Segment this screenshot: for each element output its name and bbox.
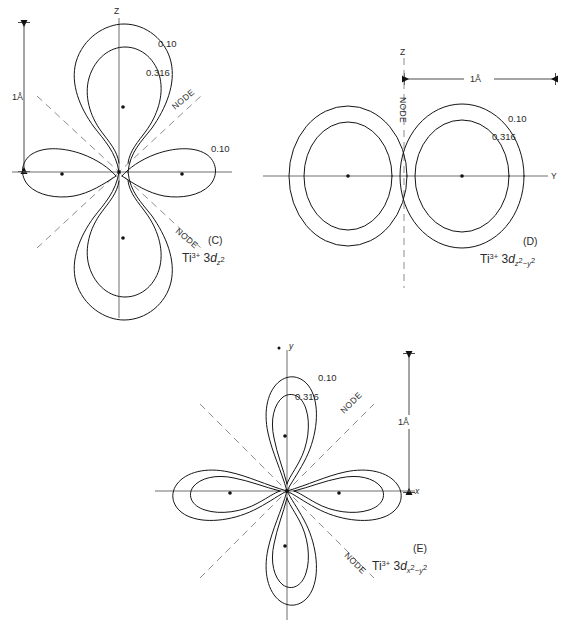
panel-c-id: (C) xyxy=(208,234,223,246)
panel-d-maximum-dot xyxy=(346,174,350,178)
panel-c-node-label-lower: NODE xyxy=(174,226,200,250)
panel-e-maximum-dot xyxy=(283,544,287,548)
panel-c-maximum-dot xyxy=(121,105,125,109)
panel-c-ion: Ti xyxy=(182,251,192,265)
panel-e-origin-dot xyxy=(285,489,289,493)
panel-d-sub-minus-exp: 2 xyxy=(531,256,535,265)
panel-d-ion: Ti xyxy=(480,252,490,266)
panel-c-node-label-upper: NODE xyxy=(170,87,196,111)
panel-e-maximum-dot xyxy=(283,434,287,438)
svg-text:Ti3+ 3dz2: Ti3+ 3dz2 xyxy=(182,251,225,267)
panel-d-scale-label: 1Å xyxy=(470,74,481,84)
svg-text:Ti3+ 3dz2−y2: Ti3+ 3dz2−y2 xyxy=(480,252,535,268)
panel-c-axis-label-z: Z xyxy=(114,6,119,16)
panel-d-scale-bar: 1Å xyxy=(402,72,558,86)
panel-e-ion: Ti xyxy=(372,559,382,573)
panel-e-axis-tick-dot xyxy=(278,347,281,350)
panel-c-maximum-dot xyxy=(180,172,184,176)
panel-e-contour-label-inner: 0.316 xyxy=(295,391,319,402)
panel-c-contour-label-inner: 0.316 xyxy=(146,67,170,78)
panel-e-scale-label: 1Å xyxy=(398,417,409,427)
orbital-contour-figure: 1Å Z NODE NODE 0.10 0.316 0.10 xyxy=(0,0,567,627)
panel-d-id: (D) xyxy=(523,235,538,247)
panel-d-axis-label-y: Y xyxy=(551,171,557,181)
panel-e-axis-label-x: x xyxy=(414,486,420,496)
panel-d: 1Å Y Z NODE 0.10 0.316 (D) Ti3+ 3dz2−y2 xyxy=(263,47,558,288)
panel-d-axis-label-z: Z xyxy=(400,47,405,57)
panel-e-sub-minus-exp: 2 xyxy=(423,563,427,572)
panel-c-caption: Ti3+ 3dz2 xyxy=(182,251,225,267)
panel-c-scale-bar: 1Å xyxy=(12,20,30,174)
panel-e-top-lobe-inner-contour xyxy=(272,394,308,484)
panel-e-caption: Ti3+ 3dx2−y2 xyxy=(372,559,427,575)
panel-e-node-label-upper: NODE xyxy=(338,390,364,416)
panel-e: 1Å y x NODE NODE 0.10 0.316 xyxy=(155,341,427,620)
svg-text:Ti3+ 3dx2−y2: Ti3+ 3dx2−y2 xyxy=(372,559,427,575)
panel-d-maximum-dot xyxy=(460,174,464,178)
panel-d-caption: Ti3+ 3dz2−y2 xyxy=(480,252,535,268)
panel-d-node-label: NODE xyxy=(398,97,408,123)
panel-e-axis-label-y: y xyxy=(288,341,294,351)
panel-c-top-lobe-inner-contour xyxy=(87,47,161,163)
panel-c: 1Å Z NODE NODE 0.10 0.316 0.10 xyxy=(12,6,232,320)
panel-e-contour-label-outer: 0.10 xyxy=(318,372,337,383)
panel-c-maximum-dot xyxy=(60,172,64,176)
panel-e-node-label-lower: NODE xyxy=(343,550,369,576)
panel-e-scale-bar: 1Å xyxy=(396,351,422,495)
panel-c-contour-label-outer: 0.10 xyxy=(158,38,177,49)
panel-e-left-lobe-inner-contour xyxy=(190,476,280,512)
panel-d-contour-label-inner: 0.316 xyxy=(492,131,516,142)
panel-e-id: (E) xyxy=(413,542,427,554)
panel-c-scale-label: 1Å xyxy=(12,92,23,102)
panel-e-maximum-dot xyxy=(228,491,232,495)
panel-e-bottom-lobe-inner-contour xyxy=(272,498,308,588)
panel-d-contour-label-outer: 0.10 xyxy=(508,113,527,124)
panel-c-maximum-dot xyxy=(121,236,125,240)
panel-c-contour-label-side: 0.10 xyxy=(211,143,230,154)
panel-c-origin-dot xyxy=(117,170,121,174)
panel-c-sub-exp: 2 xyxy=(221,255,225,264)
panel-e-maximum-dot xyxy=(337,491,341,495)
